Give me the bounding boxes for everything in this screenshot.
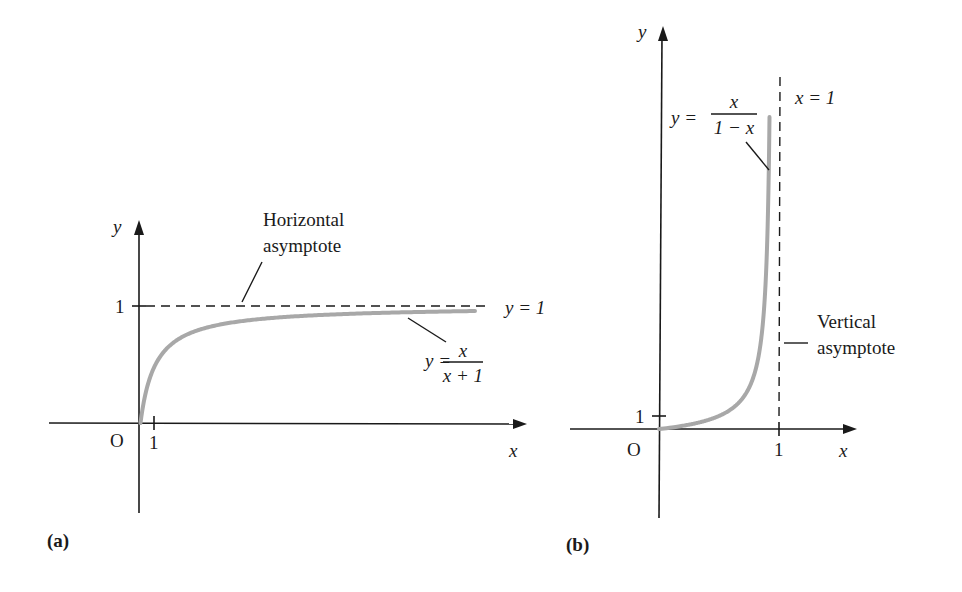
panel-b-y-label: y — [636, 21, 647, 42]
panel-b-equation-lhs: y = — [669, 107, 697, 128]
panel-a-x-tick-label: 1 — [149, 432, 159, 453]
panel-a: y x O 1 1 Horizontal asymptote y = 1 y =… — [47, 209, 545, 552]
panel-a-equation-denominator: x + 1 — [442, 365, 483, 386]
panel-a-callout-line1: Horizontal — [263, 209, 344, 230]
panel-b-curve — [659, 117, 770, 429]
panel-b-vertical-asymptote — [779, 77, 780, 422]
panel-b-y-tick-label: 1 — [635, 406, 645, 427]
panel-b-x-label: x — [838, 440, 848, 461]
asymptote-figure: y x O 1 1 Horizontal asymptote y = 1 y =… — [0, 0, 962, 592]
panel-a-origin-label: O — [110, 430, 124, 451]
panel-a-asymptote-equation: y = 1 — [503, 297, 545, 318]
panel-b-equation-denominator: 1 − x — [714, 117, 755, 138]
panel-a-y-label: y — [111, 216, 122, 237]
panel-b-equation-numerator: x — [729, 91, 739, 112]
panel-a-callout-line2: asymptote — [263, 235, 341, 256]
panel-a-curve-equation: y = x x + 1 — [423, 340, 483, 386]
panel-b-callout-line1: Vertical — [817, 311, 876, 332]
panel-a-equation-numerator: x — [458, 340, 468, 361]
panel-a-curve-leader — [408, 318, 446, 342]
panel-a-x-axis-arrow-icon — [513, 419, 527, 429]
panel-a-x-axis — [49, 423, 518, 424]
panel-a-y-tick-label: 1 — [115, 296, 125, 317]
panel-b-label: (b) — [566, 534, 589, 556]
panel-b-x-tick-label: 1 — [774, 439, 784, 460]
panel-a-asymptote-leader — [242, 262, 262, 302]
panel-a-x-label: x — [508, 440, 518, 461]
panel-b-origin-label: O — [627, 439, 641, 460]
panel-b-x-axis-arrow-icon — [843, 424, 857, 434]
panel-b-callout-line2: asymptote — [817, 337, 895, 358]
panel-a-y-axis-arrow-icon — [134, 220, 144, 235]
panel-a-label: (a) — [47, 530, 69, 552]
panel-b-curve-leader — [746, 142, 769, 170]
panel-b-y-axis — [659, 36, 662, 518]
panel-b-curve-equation: y = x 1 − x — [669, 91, 757, 138]
panel-b-y-axis-arrow-icon — [658, 26, 668, 41]
panel-b: y x O 1 1 x = 1 Vertical asymptote y = x… — [566, 21, 895, 556]
panel-b-asymptote-equation: x = 1 — [794, 87, 835, 108]
